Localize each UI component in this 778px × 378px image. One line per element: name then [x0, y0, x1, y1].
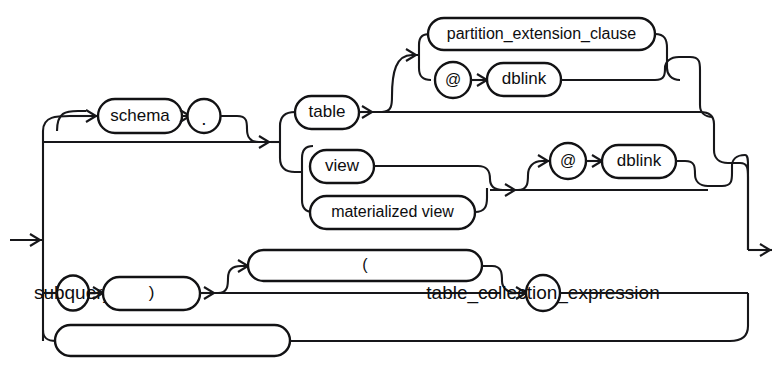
node-table[interactable]: table [295, 96, 359, 129]
node-materialized-view-label: materialized view [331, 203, 454, 220]
node-at-mid[interactable]: @ [550, 143, 586, 179]
node-view[interactable]: view [310, 150, 374, 183]
node-view-label: view [325, 156, 360, 175]
node-at-top-label: @ [445, 71, 461, 88]
dblink-mid-merge-rail [676, 155, 745, 186]
node-table-label: table [309, 102, 346, 121]
table-to-optional-group-riser [382, 55, 419, 112]
table-branch-to-right-bus [700, 112, 748, 250]
view-bus-vertical [295, 146, 313, 212]
entry-arrow [10, 234, 43, 246]
node-at-top[interactable]: @ [435, 62, 471, 98]
node-dblink-mid[interactable]: dblink [602, 145, 676, 178]
node-schema-label: schema [110, 106, 170, 125]
node-subquery-restriction-clause-label: ( [362, 256, 368, 273]
view-branch-to-right-bus [745, 155, 748, 250]
node-dblink-top[interactable]: dblink [487, 63, 561, 96]
dblink-top-merge-rail [561, 57, 713, 117]
object-bus-vertical [280, 112, 295, 172]
exit-arrow [748, 244, 772, 256]
railroad-diagram: schema . table [0, 0, 778, 378]
view-dblink-riser [518, 161, 549, 190]
node-materialized-view[interactable]: materialized view [310, 196, 475, 229]
node-table-collection-expression[interactable] [55, 325, 290, 356]
node-schema[interactable]: schema [98, 99, 182, 133]
node-dblink-mid-label: dblink [617, 151, 662, 170]
node-dot[interactable]: . [188, 99, 221, 133]
node-dblink-top-label: dblink [502, 69, 547, 88]
node-subquery[interactable]: ) [103, 277, 200, 310]
node-partition-extension-clause-label: partition_extension_clause [447, 25, 637, 43]
schema-branch-riser-2 [57, 111, 86, 131]
node-subquery-label: ) [149, 283, 155, 302]
syntax-diagram-canvas: schema . table [0, 0, 778, 378]
node-dot-label: . [201, 108, 206, 129]
matview-merge-rail [475, 188, 487, 212]
node-subquery-restriction-clause[interactable]: ( [248, 250, 482, 281]
node-at-mid-label: @ [560, 152, 576, 169]
node-partition-extension-clause[interactable]: partition_extension_clause [428, 18, 655, 50]
view-merge-rail [374, 166, 503, 190]
restriction-riser-rail [218, 266, 248, 293]
